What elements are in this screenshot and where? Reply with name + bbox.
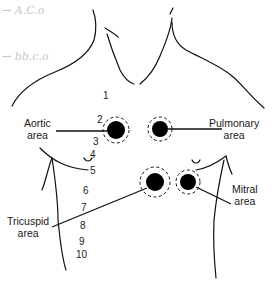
intercostal-6: 6 [83, 185, 89, 196]
intercostal-4: 4 [90, 149, 96, 160]
aortic-label-line2: area [24, 129, 51, 141]
pulmonary-area-label: Pulmonary area [209, 117, 259, 141]
tricuspid-point [140, 167, 170, 197]
left-pectoral [40, 148, 88, 170]
intercostal-7: 7 [81, 202, 87, 213]
tricuspid-label-line1: Tricuspid [7, 215, 49, 227]
mitral-area-label: Mitral area [232, 183, 258, 207]
right-neck-tip [170, 8, 173, 14]
aortic-area-label: Aortic area [24, 117, 51, 141]
left-neck-line [107, 34, 134, 84]
mitral-leader [196, 187, 231, 204]
intercostal-1: 1 [103, 90, 109, 101]
left-flank [52, 158, 66, 270]
intercostal-10: 10 [76, 249, 87, 260]
right-pectoral [196, 156, 226, 170]
right-armpit [226, 156, 232, 174]
aortic-label-line1: Aortic [24, 117, 51, 129]
intercostal-3: 3 [93, 136, 99, 147]
aortic-point [103, 117, 129, 143]
handwritten-note-1: → A.C.o [2, 4, 44, 17]
pulmonary-label-line1: Pulmonary [209, 117, 259, 129]
pulmonary-label-line2: area [209, 129, 259, 141]
intercostal-5: 5 [90, 165, 96, 176]
tricuspid-label-line2: area [7, 227, 49, 239]
tricuspid-area-label: Tricuspid area [7, 215, 49, 239]
tricuspid-leader [52, 188, 147, 227]
left-armpit [42, 158, 52, 190]
intercostal-2: 2 [97, 114, 103, 125]
handwritten-note-2: → bb.c.o [2, 50, 49, 63]
intercostal-9: 9 [79, 236, 85, 247]
mitral-label-line2: area [232, 195, 258, 207]
right-shoulder-outline [172, 22, 264, 108]
intercostal-8: 8 [80, 220, 86, 231]
chest-diagram [0, 0, 274, 292]
mitral-point [176, 170, 200, 194]
right-neck-line [140, 18, 172, 84]
right-flank [214, 160, 224, 278]
mitral-label-line1: Mitral [232, 183, 258, 195]
right-nipple [192, 160, 200, 163]
